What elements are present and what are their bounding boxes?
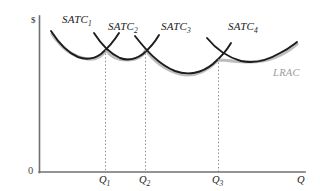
satc4-label: SATC4 <box>228 21 258 35</box>
q1-text: Q <box>99 174 107 185</box>
satc4-label-text: SATC <box>228 20 254 32</box>
satc2-label-text: SATC <box>108 20 134 32</box>
satc1-label: SATC1 <box>62 14 92 28</box>
chart-canvas <box>0 0 320 191</box>
cost-curve-diagram: $ 0 Q SATC1 SATC2 SATC3 SATC4 LRAC Q1 Q2… <box>0 0 320 191</box>
q3-text: Q <box>212 174 220 185</box>
satc1-label-text: SATC <box>62 13 88 25</box>
y-axis-label: $ <box>31 16 36 25</box>
lrac-label: LRAC <box>273 68 300 79</box>
x-axis-label: Q <box>297 175 305 186</box>
satc2-label-subscript: 2 <box>134 26 138 35</box>
satc4-label-subscript: 4 <box>254 26 258 35</box>
q2-text: Q <box>139 174 147 185</box>
q1-subscript: 1 <box>107 179 111 188</box>
satc4-curve <box>207 38 297 62</box>
origin-label: 0 <box>28 166 33 177</box>
satc3-label-text: SATC <box>161 20 187 32</box>
satc3-label: SATC3 <box>161 21 191 35</box>
satc1-label-subscript: 1 <box>88 19 92 28</box>
lrac-envelope-curve <box>52 34 297 75</box>
q3-subscript: 3 <box>220 179 224 188</box>
q2-subscript: 2 <box>147 179 151 188</box>
satc3-label-subscript: 3 <box>187 26 191 35</box>
x-tick-label-q1: Q1 <box>99 175 110 188</box>
x-tick-label-q2: Q2 <box>139 175 150 188</box>
x-tick-label-q3: Q3 <box>212 175 223 188</box>
satc2-label: SATC2 <box>108 21 138 35</box>
